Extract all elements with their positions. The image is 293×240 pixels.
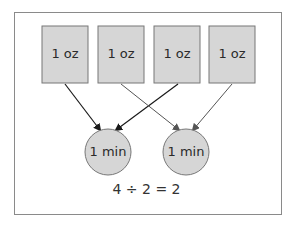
equation: 4 ÷ 2 = 2 [0,181,293,197]
box-label-3: 1 oz [154,46,200,61]
circle-label-2: 1 min [163,144,209,159]
box-label-1: 1 oz [42,46,88,61]
arrows [65,84,232,130]
circle-label-1: 1 min [85,144,131,159]
box-label-2: 1 oz [98,46,144,61]
box-label-4: 1 oz [209,46,255,61]
